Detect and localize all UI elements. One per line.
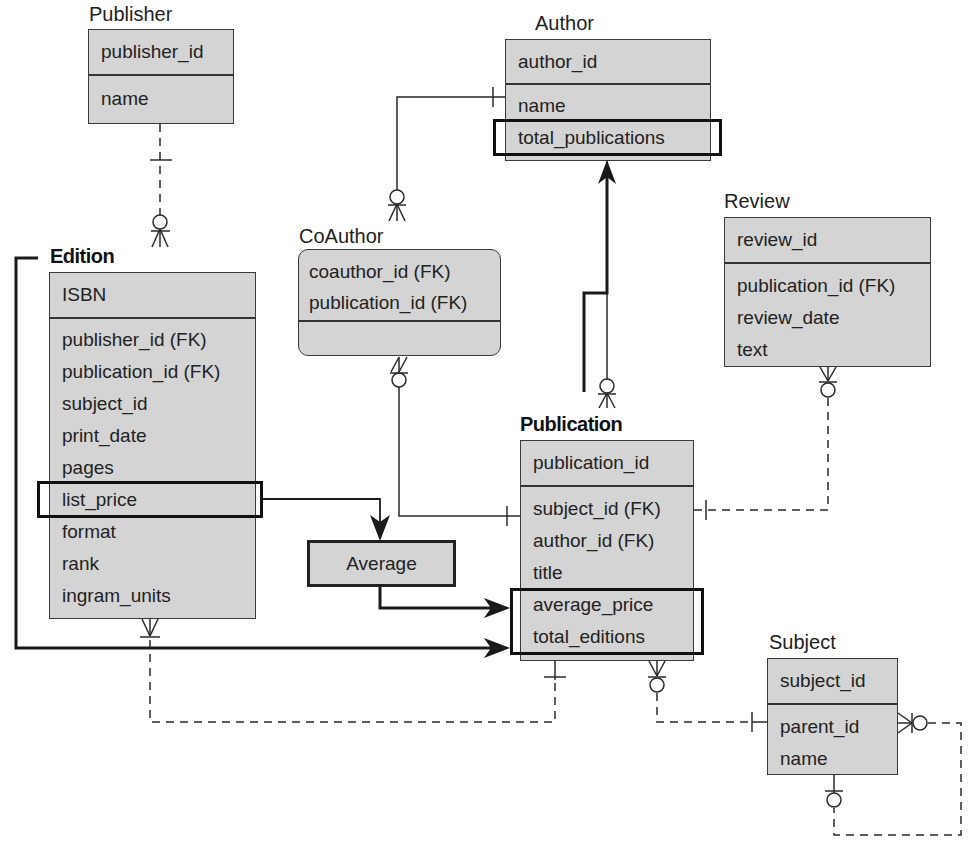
rel-publication-subject bbox=[648, 661, 767, 732]
flow-listprice-average bbox=[263, 499, 380, 528]
field-pages: pages bbox=[62, 452, 255, 484]
field-subject-id: subject_id bbox=[62, 388, 255, 420]
entity-title-publication: Publication bbox=[520, 413, 622, 436]
rel-coauthor-publication bbox=[390, 357, 520, 526]
field-format: format bbox=[62, 516, 255, 548]
primary-key-section: publication_id bbox=[521, 441, 693, 487]
field-name: name bbox=[101, 83, 233, 115]
entity-title-edition: Edition bbox=[50, 245, 114, 268]
rel-review-publication bbox=[694, 367, 837, 520]
field-publisher-id: publisher_id (FK) bbox=[62, 324, 255, 356]
field-subject-id: subject_id bbox=[780, 659, 897, 703]
highlight-average-price-total-editions bbox=[510, 588, 704, 655]
primary-key-section: subject_id bbox=[768, 659, 897, 705]
field-publication-id: publication_id bbox=[533, 441, 693, 485]
field-author-id: author_id (FK) bbox=[533, 525, 693, 557]
field-title: title bbox=[533, 557, 693, 589]
primary-key-section: author_id bbox=[506, 40, 710, 85]
field-name: name bbox=[518, 90, 710, 122]
entity-title-review: Review bbox=[724, 190, 790, 213]
entity-publisher: publisher_id name bbox=[88, 29, 234, 124]
field-author-id: author_id bbox=[518, 40, 710, 84]
field-rank: rank bbox=[62, 548, 255, 580]
primary-key-section: ISBN bbox=[50, 273, 255, 319]
field-text: text bbox=[737, 334, 930, 366]
flow-average-publication bbox=[380, 587, 497, 608]
entity-title-coauthor: CoAuthor bbox=[299, 225, 384, 248]
field-print-date: print_date bbox=[62, 420, 255, 452]
field-publication-id: publication_id (FK) bbox=[737, 270, 930, 302]
primary-key-section: review_id bbox=[725, 218, 930, 264]
entity-subject: subject_id parent_id name bbox=[767, 658, 898, 775]
attribute-section: parent_id name bbox=[768, 705, 897, 775]
entity-title-author: Author bbox=[535, 12, 594, 35]
flow-publication-author bbox=[584, 174, 607, 392]
entity-review: review_id publication_id (FK) review_dat… bbox=[724, 217, 931, 367]
rel-edition-publication bbox=[140, 619, 566, 722]
primary-key-section: publisher_id bbox=[89, 30, 233, 76]
primary-key-section: coauthor_id (FK) publication_id (FK) bbox=[299, 250, 500, 322]
derived-average-box: Average bbox=[307, 540, 456, 587]
field-review-id: review_id bbox=[737, 218, 930, 262]
rel-author-coauthor bbox=[388, 87, 505, 221]
highlight-list-price bbox=[37, 481, 263, 518]
attribute-section: publisher_id (FK) publication_id (FK) su… bbox=[50, 319, 255, 612]
field-publication-id: publication_id (FK) bbox=[309, 287, 500, 318]
attribute-section: name bbox=[89, 76, 233, 115]
field-publisher-id: publisher_id bbox=[101, 30, 233, 74]
highlight-total-publications bbox=[493, 119, 722, 156]
field-subject-id: subject_id (FK) bbox=[533, 493, 693, 525]
field-name: name bbox=[780, 743, 897, 775]
field-coauthor-id: coauthor_id (FK) bbox=[309, 256, 500, 287]
field-publication-id: publication_id (FK) bbox=[62, 356, 255, 388]
field-isbn: ISBN bbox=[62, 273, 255, 317]
rel-publisher-edition bbox=[150, 124, 172, 247]
attribute-section: publication_id (FK) review_date text bbox=[725, 264, 930, 366]
field-ingram-units: ingram_units bbox=[62, 580, 255, 612]
field-review-date: review_date bbox=[737, 302, 930, 334]
field-parent-id: parent_id bbox=[780, 711, 897, 743]
entity-coauthor: coauthor_id (FK) publication_id (FK) bbox=[298, 249, 501, 356]
entity-title-publisher: Publisher bbox=[89, 3, 172, 26]
entity-title-subject: Subject bbox=[769, 631, 836, 654]
entity-edition: ISBN publisher_id (FK) publication_id (F… bbox=[49, 272, 256, 619]
